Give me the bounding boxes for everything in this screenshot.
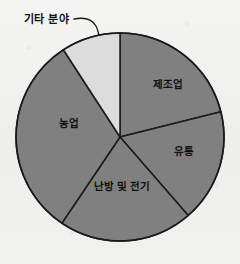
callout-label-기타분야: 기타 분야 <box>24 12 69 25</box>
slice-label-난방및전기: 난방 및 전기 <box>94 180 150 192</box>
slice-label-유통: 유통 <box>174 145 194 157</box>
slice-label-제조업: 제조업 <box>153 78 183 90</box>
pie-chart-canvas: 제조업유통난방 및 전기농업 기타 분야 <box>0 0 240 264</box>
pie-chart-figure: 제조업유통난방 및 전기농업 기타 분야 <box>0 0 240 264</box>
slice-label-농업: 농업 <box>59 117 79 129</box>
callout-leader-line <box>74 18 99 35</box>
pie-slices-group <box>16 33 224 241</box>
